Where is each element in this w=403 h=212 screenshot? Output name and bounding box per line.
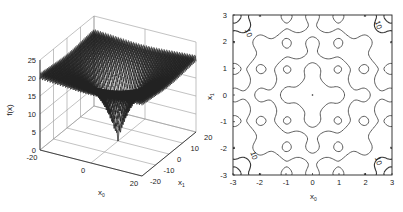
contour-x-tick: 3 (390, 178, 394, 187)
global-minimum-marker (312, 94, 314, 96)
z-axis-label: f(x) (5, 104, 14, 116)
z-tick: 25 (28, 56, 36, 65)
figure: 0510152025-20020-20-1001020 f(x) x0 x1 -… (0, 0, 403, 212)
contour-y-tick: -3 (220, 171, 227, 180)
contour-x1-label: x1 (205, 93, 215, 100)
x1-axis-label: x1 (178, 178, 185, 188)
x0-axis-label: x0 (98, 188, 105, 198)
contour-x-tick: -1 (283, 178, 290, 187)
contour-label: 10 (248, 150, 259, 161)
contour-x-tick: -2 (256, 178, 263, 187)
x0-tick: -20 (27, 153, 38, 162)
contour-label: 10 (243, 27, 254, 38)
contour-y-tick: 1 (223, 64, 227, 73)
contour-y-tick: 3 (223, 11, 227, 20)
contour-x0-label: x0 (310, 192, 317, 202)
x0-tick: 20 (130, 179, 138, 188)
surface-plot: 0510152025-20020-20-1001020 f(x) x0 x1 (5, 16, 212, 198)
z-tick: 20 (28, 74, 36, 83)
contour-y-tick: -2 (220, 144, 227, 153)
z-tick: 10 (28, 110, 36, 119)
contour-y-tick: 2 (223, 37, 227, 46)
contour-y-tick: 0 (223, 91, 227, 100)
contour-label: 10 (373, 19, 384, 30)
contour-y-tick: -1 (220, 117, 227, 126)
x0-tick: 0 (81, 166, 85, 175)
contour-x-tick: -3 (230, 178, 237, 187)
x1-tick: -20 (150, 177, 161, 186)
contour-x-tick: 1 (337, 178, 341, 187)
x1-tick: 10 (191, 144, 199, 153)
x1-tick: 0 (177, 155, 181, 164)
surface-mesh (40, 30, 196, 142)
x1-tick: -10 (164, 166, 175, 175)
contour-x-tick: 0 (310, 178, 314, 187)
z-tick: 15 (28, 92, 36, 101)
contour-x-tick: 2 (363, 178, 367, 187)
x1-tick: 20 (204, 133, 212, 142)
contour-plot: -3-2-10123-3-2-1012310101010 x0 x1 (205, 11, 394, 203)
z-tick: 5 (32, 128, 36, 137)
